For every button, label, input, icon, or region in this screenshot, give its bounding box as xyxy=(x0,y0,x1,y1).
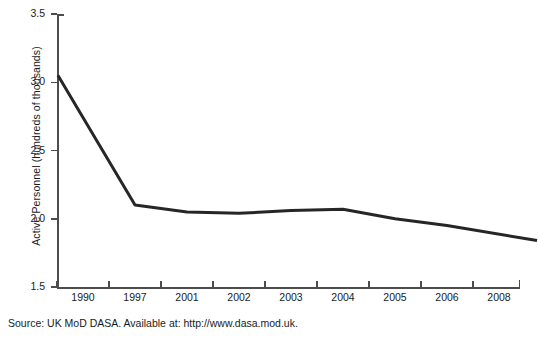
series-layer xyxy=(0,0,538,337)
chart-figure: Active Personnel (hundreds of thousands)… xyxy=(0,0,538,337)
source-note: Source: UK MoD DASA. Available at: http:… xyxy=(8,317,298,329)
series-line-active-personnel xyxy=(58,75,537,240)
